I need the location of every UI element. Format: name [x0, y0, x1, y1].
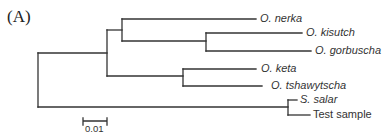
- taxon-label-o-keta: O. keta: [261, 63, 296, 74]
- taxon-label-s-salar: S. salar: [300, 94, 337, 105]
- taxon-label-o-nerka: O. nerka: [260, 13, 302, 24]
- taxon-label-o-kisutch: O. kisutch: [306, 27, 355, 38]
- scale-bar-label: 0.01: [85, 124, 104, 134]
- taxon-label-o-gorbuscha: O. gorbuscha: [315, 45, 381, 56]
- taxon-label-test-sample: Test sample: [313, 109, 372, 120]
- taxon-label-o-tshawytscha: O. tshawytscha: [271, 80, 346, 91]
